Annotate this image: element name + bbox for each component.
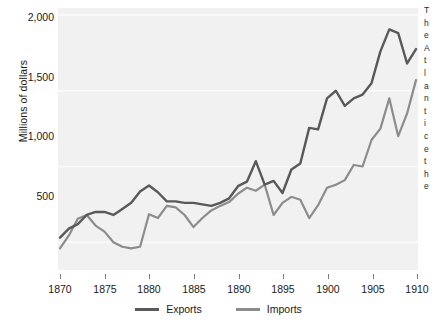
chart-legend: Exports Imports — [0, 303, 437, 315]
x-tick-mark — [283, 274, 284, 279]
gridlines — [58, 15, 418, 242]
legend-label-exports: Exports — [166, 303, 202, 315]
legend-label-imports: Imports — [267, 303, 302, 315]
y-tick-label-500: 500 — [8, 190, 54, 202]
x-tick-mark — [417, 274, 418, 279]
margin-text-fragment: h — [424, 168, 437, 181]
chart-canvas — [58, 8, 418, 270]
x-tick-label-1905: 1905 — [350, 283, 396, 295]
margin-text-fragment: T — [424, 4, 437, 17]
imports-line — [60, 80, 416, 248]
margin-text-fragment: A — [424, 42, 437, 55]
margin-text-fragment: e — [424, 143, 437, 156]
x-tick-mark — [239, 274, 240, 279]
margin-text-fragment: i — [424, 193, 437, 194]
x-tick-mark — [149, 274, 150, 279]
legend-item-exports: Exports — [135, 303, 202, 315]
margin-text-fragment: t — [424, 105, 437, 118]
x-tick-label-1910: 1910 — [394, 283, 437, 295]
margin-text-fragment: h — [424, 17, 437, 30]
margin-text-fragment: e — [424, 180, 437, 193]
x-tick-label-1895: 1895 — [260, 283, 306, 295]
margin-text-fragment: l — [424, 67, 437, 80]
x-tick-label-1890: 1890 — [216, 283, 262, 295]
y-tick-label-2000: 2,000 — [8, 11, 54, 23]
legend-swatch-imports — [236, 308, 260, 311]
x-tick-mark — [194, 274, 195, 279]
y-tick-label-1500: 1,500 — [8, 71, 54, 83]
margin-text-fragment: i — [424, 117, 437, 130]
clipped-margin-text: TheAtlanticetheinat — [424, 4, 437, 194]
line-chart-figure: Millions of dollars 2,000 1,500 1,000 50… — [0, 0, 437, 325]
y-tick-label-1000: 1,000 — [8, 130, 54, 142]
x-tick-mark — [60, 274, 61, 279]
y-axis-title: Millions of dollars — [17, 31, 29, 171]
x-tick-mark — [105, 274, 106, 279]
x-tick-label-1875: 1875 — [82, 283, 128, 295]
x-tick-mark — [373, 274, 374, 279]
margin-text-fragment: e — [424, 29, 437, 42]
margin-text-fragment: c — [424, 130, 437, 143]
plot-area — [58, 8, 418, 270]
margin-text-fragment: a — [424, 80, 437, 93]
margin-text-fragment: t — [424, 155, 437, 168]
x-tick-mark — [328, 274, 329, 279]
x-tick-label-1885: 1885 — [171, 283, 217, 295]
legend-item-imports: Imports — [236, 303, 302, 315]
margin-text-fragment: n — [424, 92, 437, 105]
x-tick-label-1900: 1900 — [305, 283, 351, 295]
margin-text-fragment: t — [424, 54, 437, 67]
x-tick-label-1870: 1870 — [37, 283, 83, 295]
legend-swatch-exports — [135, 308, 159, 311]
x-tick-label-1880: 1880 — [126, 283, 172, 295]
exports-line — [60, 29, 416, 237]
